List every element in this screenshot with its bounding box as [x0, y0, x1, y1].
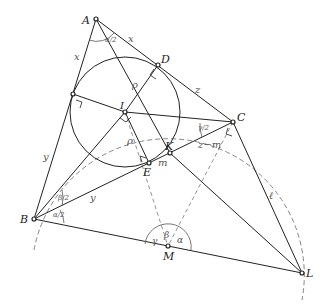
- label-D: D: [160, 53, 170, 66]
- dashed-lines: [125, 112, 233, 246]
- seg-AF: x: [74, 51, 80, 62]
- point-C: [231, 120, 235, 124]
- seg-EK: m: [158, 157, 167, 168]
- point-D: [156, 63, 160, 67]
- angle-C: γ/2: [198, 124, 210, 132]
- label-K: K: [164, 140, 174, 153]
- seg-BE: y: [89, 192, 96, 203]
- seg-AD: x: [128, 33, 134, 44]
- angle-M-gamma: γ: [152, 236, 158, 246]
- seg-ID: ρ: [131, 79, 138, 90]
- angle-M-beta: β: [163, 230, 169, 240]
- label-C: C: [237, 111, 246, 124]
- label-A: A: [81, 14, 90, 27]
- angle-A: α/2: [105, 36, 117, 44]
- label-E: E: [142, 166, 151, 179]
- point-A: [94, 17, 98, 21]
- seg-KC: z−m: [197, 139, 221, 150]
- angle-B-top: β/2: [57, 194, 69, 202]
- label-L: L: [305, 267, 313, 280]
- geometry-figure: A D C I E K B M L x x ρ ρ z y y m z−m ℓ …: [0, 0, 333, 308]
- angle-M-alpha: α: [177, 235, 183, 245]
- seg-CL: ℓ: [269, 190, 273, 201]
- seg-IE: ρ: [126, 135, 133, 146]
- point-F: [71, 92, 75, 96]
- point-B: [32, 217, 36, 221]
- point-E: [147, 161, 151, 165]
- label-M: M: [162, 250, 175, 263]
- dashed-circle: [34, 139, 304, 300]
- label-B: B: [19, 213, 28, 226]
- seg-BF: y: [42, 151, 49, 162]
- point-L: [300, 271, 304, 275]
- seg-DC: z: [194, 84, 201, 95]
- point-M: [166, 244, 170, 248]
- label-I: I: [119, 100, 125, 111]
- angle-B-bottom: α/2: [53, 211, 65, 219]
